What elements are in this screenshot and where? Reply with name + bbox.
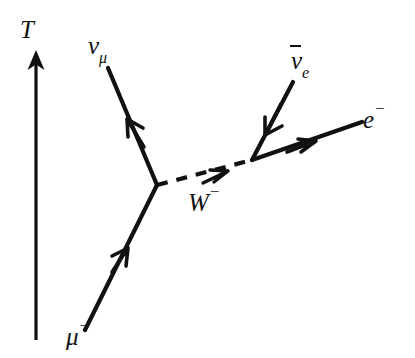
electron-label-charge: − — [375, 99, 385, 118]
muon-label-charge: − — [80, 316, 90, 335]
electron-label: e− — [363, 107, 384, 132]
electron-antineutrino-label-subscript: e — [302, 64, 309, 81]
muon-label-base: μ — [66, 323, 79, 350]
w-boson-label: W− — [188, 190, 218, 215]
w-boson-label-base: W — [188, 189, 209, 216]
muon-line — [85, 185, 157, 330]
antiparticle-overline: ν — [291, 45, 302, 73]
electron-antineutrino-label: νe — [291, 45, 309, 76]
muon-neutrino-label-subscript: μ — [99, 49, 107, 66]
feynman-diagram-canvas: T νμ νe e− W− μ− — [0, 0, 415, 358]
electron-antineutrino-label-base: ν — [291, 45, 302, 73]
feynman-diagram-svg — [0, 0, 415, 358]
muon-neutrino-label: νμ — [88, 33, 107, 61]
w-boson-propagator — [157, 160, 252, 185]
muon-label: μ− — [66, 324, 88, 349]
muon-neutrino-line — [108, 68, 157, 185]
muon-neutrino-label-base: ν — [88, 32, 99, 59]
electron-antineutrino-line-arrowhead — [265, 104, 282, 135]
muon-line-arrowhead — [112, 248, 128, 272]
electron-label-base: e — [363, 106, 374, 133]
time-axis-arrow — [28, 50, 45, 340]
time-axis-label: T — [20, 17, 34, 42]
w-boson-label-charge: − — [210, 182, 220, 201]
muon-neutrino-line-arrowhead — [127, 119, 144, 147]
time-axis-label-text: T — [20, 16, 34, 43]
